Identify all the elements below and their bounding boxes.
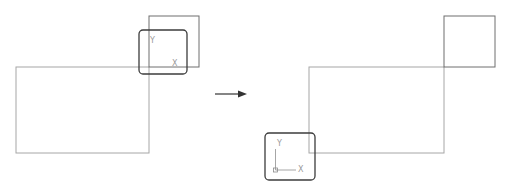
- arrow-head-icon: [238, 91, 247, 98]
- ucs-icon-frame: [265, 133, 315, 180]
- after-square: [444, 16, 495, 67]
- diagram-canvas: Y X Y X: [0, 0, 509, 192]
- before-rectangle: [16, 67, 149, 153]
- after-state: Y X: [265, 16, 495, 180]
- x-axis-label: X: [298, 165, 304, 174]
- before-state: Y X: [16, 16, 199, 153]
- after-ucs-icon: Y X: [265, 133, 315, 180]
- y-axis-label: Y: [149, 36, 155, 45]
- y-axis-label: Y: [276, 139, 282, 148]
- transition-arrow: [215, 91, 247, 98]
- x-axis-label: X: [172, 59, 178, 68]
- after-rectangle: [309, 67, 444, 153]
